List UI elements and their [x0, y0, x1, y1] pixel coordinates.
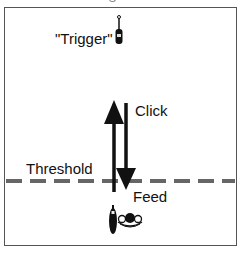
threshold-label: Threshold: [26, 161, 93, 176]
feed-label: Feed: [133, 189, 167, 204]
feeder-device-icon: [109, 205, 117, 234]
diagram-graphics: [0, 0, 240, 253]
click-label: Click: [135, 103, 168, 118]
trigger-label: "Trigger": [55, 31, 113, 46]
animal-icon: [118, 213, 142, 227]
trigger-device-icon: [116, 16, 123, 45]
